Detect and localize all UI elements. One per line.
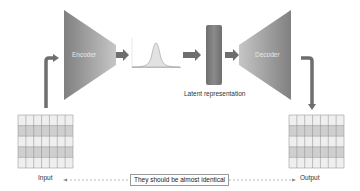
gaussian-distribution-icon xyxy=(132,38,181,68)
latent-representation-label: Latent representation xyxy=(184,90,245,97)
arrow-encoder-to-distribution xyxy=(116,49,129,61)
input-label: Input xyxy=(38,174,52,181)
arrow-distribution-to-latent xyxy=(183,49,201,61)
latent-representation-block xyxy=(206,25,222,85)
autoencoder-diagram xyxy=(0,0,360,191)
input-grid xyxy=(18,115,73,168)
output-grid xyxy=(289,115,344,168)
encoder-label: Encoder xyxy=(72,51,96,58)
arrow-latent-to-decoder xyxy=(225,49,239,61)
decoder-label: Decoder xyxy=(255,51,280,58)
output-label: Output xyxy=(300,174,320,181)
arrow-input-to-encoder xyxy=(46,54,59,108)
arrow-decoder-to-output xyxy=(301,58,316,110)
comparison-caption: They should be almost identical xyxy=(130,174,229,186)
